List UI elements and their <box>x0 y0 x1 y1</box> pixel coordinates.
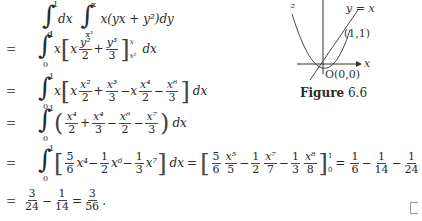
x-axis-arrow-icon <box>356 61 362 67</box>
equation-line-6: = 324− 114= 356. <box>0 188 106 213</box>
integral-sign: ∫xx² <box>78 4 96 34</box>
integral-sign: ∫10 <box>36 108 54 138</box>
differential: dx <box>58 12 72 26</box>
equation-line-2: = ∫10 x [x y²2 + y³3 ] xx² dx <box>0 34 157 64</box>
svg-text:y = x²: y = x² <box>290 2 295 15</box>
integral-sign: ∫10 <box>36 76 54 106</box>
equation-line-4: = ∫10 ( x⁴2+ x⁴3− x⁶2− x⁷3 ) dx <box>0 108 187 138</box>
svg-text:y = x: y = x <box>345 2 375 15</box>
integral-sign: ∫10 <box>36 148 54 178</box>
qed-box-icon <box>410 202 418 214</box>
equation-line-3: = ∫10 x [x x²2+ x³3−x x⁴2− x⁶3 ] dx <box>0 76 207 106</box>
svg-text:x: x <box>364 57 371 70</box>
parabola-curve <box>292 14 350 68</box>
integral-sign: ∫10 <box>36 34 54 64</box>
figure-caption: Figure 6.6 <box>300 86 367 100</box>
integrand: x(yx + y²)dy <box>100 12 173 26</box>
equation-line-1: ∫10 dx ∫xx² x(yx + y²)dy <box>40 4 174 34</box>
svg-text:(1,1): (1,1) <box>344 27 370 40</box>
equation-line-5: = ∫10 [ 56x⁴− 12x⁶− 13x⁷ ] dx= [ 56x⁵5− … <box>0 148 422 178</box>
svg-text:O(0,0): O(0,0) <box>325 68 360 81</box>
